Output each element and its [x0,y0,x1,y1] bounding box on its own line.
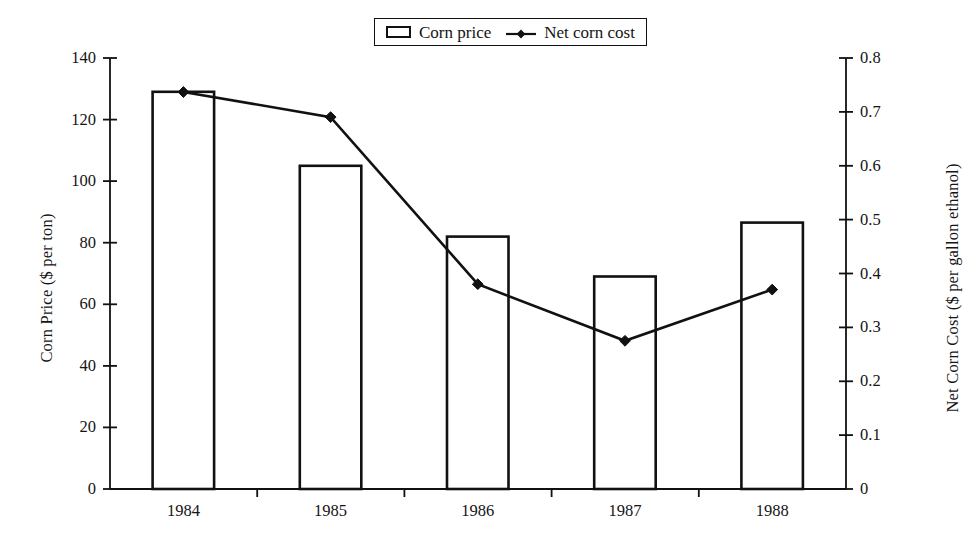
bar-series-corn-price [153,92,803,489]
axis-right [839,58,853,489]
line-with-diamond-marker-icon [506,26,536,38]
bar-1987 [594,277,656,490]
y-axis-title-left: Corn Price ($ per ton) [37,158,57,418]
ytick-right-0_6: 0.6 [860,156,881,176]
ytick-right-0_2: 0.2 [860,371,881,391]
ytick-right-0_5: 0.5 [860,210,881,230]
ytick-right-0: 0 [860,479,868,499]
axis-left [103,58,117,489]
xtick-1985: 1985 [314,501,347,521]
chart-legend: Corn price Net corn cost [374,18,647,46]
ytick-left-40: 40 [80,356,97,376]
xtick-1986: 1986 [461,501,494,521]
xtick-1988: 1988 [756,501,789,521]
ytick-left-20: 20 [80,417,97,437]
ytick-right-0_1: 0.1 [860,425,881,445]
xtick-1984: 1984 [167,501,200,521]
bar-1985 [300,166,362,489]
legend-entry-corn-price: Corn price [386,24,491,41]
legend-label-net-corn-cost: Net corn cost [544,24,635,41]
ytick-left-140: 140 [71,48,96,68]
open-rectangle-icon [386,26,411,38]
legend-entry-net-corn-cost: Net corn cost [506,24,635,41]
bar-1984 [153,92,215,489]
ytick-right-0_3: 0.3 [860,317,881,337]
ytick-left-120: 120 [71,110,96,130]
ytick-right-0_4: 0.4 [860,264,881,284]
ytick-right-0_8: 0.8 [860,48,881,68]
y-axis-title-right: Net Corn Cost ($ per gallon ethanol) [943,123,963,453]
ytick-left-0: 0 [88,479,96,499]
ytick-left-100: 100 [71,171,96,191]
bar-1986 [447,237,509,489]
xtick-1987: 1987 [609,501,642,521]
legend-label-corn-price: Corn price [419,24,491,41]
ytick-left-80: 80 [80,233,97,253]
ytick-left-60: 60 [80,294,97,314]
ytick-right-0_7: 0.7 [860,102,881,122]
bar-1988 [741,223,803,489]
